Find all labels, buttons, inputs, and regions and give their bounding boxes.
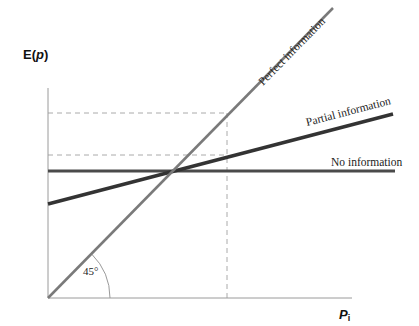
label-no-information: No information (331, 156, 402, 168)
angle-label: 45° (83, 265, 98, 277)
diagram-canvas: 45° Perfect information Partial informat… (0, 0, 419, 326)
x-axis-label: Pi (339, 307, 350, 323)
y-axis-label: E(p) (23, 47, 48, 62)
label-perfect-information: Perfect information (256, 15, 328, 88)
label-partial-information: Partial information (304, 94, 392, 128)
